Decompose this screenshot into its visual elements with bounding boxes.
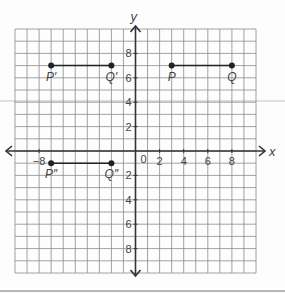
- y-axis-label: y: [130, 9, 139, 24]
- y-tick-label: 2: [125, 121, 131, 133]
- x-tick-label: 8: [229, 155, 235, 167]
- point-label: Q′: [106, 70, 118, 84]
- page-divider: [0, 290, 285, 292]
- y-tick-label: 4: [125, 194, 131, 206]
- point-label: P″: [45, 167, 58, 181]
- x-axis-label: x: [268, 144, 276, 159]
- y-tick-label: 8: [125, 243, 131, 255]
- point-label: Q″: [105, 167, 119, 181]
- point-label: P′: [46, 70, 57, 84]
- point-P′: [48, 63, 54, 69]
- x-tick-label: 6: [205, 155, 211, 167]
- point-Q″: [108, 160, 114, 166]
- y-tick-label: 6: [125, 72, 131, 84]
- y-tick-label: 4: [125, 96, 131, 108]
- point-Q: [229, 63, 235, 69]
- point-P: [169, 63, 175, 69]
- point-Q′: [108, 63, 114, 69]
- point-label: P: [168, 70, 176, 84]
- x-tick-label: 4: [181, 155, 187, 167]
- y-tick-label: 6: [125, 218, 131, 230]
- y-tick-label: 2: [125, 169, 131, 181]
- coordinate-plane: xy0−8246886422468PQP′Q′P″Q″: [0, 0, 285, 294]
- x-tick-label: −8: [33, 155, 46, 167]
- x-tick-label: 2: [157, 155, 163, 167]
- origin-label: 0: [141, 153, 147, 165]
- y-tick-label: 8: [125, 47, 131, 59]
- point-P″: [48, 160, 54, 166]
- point-label: Q: [227, 70, 236, 84]
